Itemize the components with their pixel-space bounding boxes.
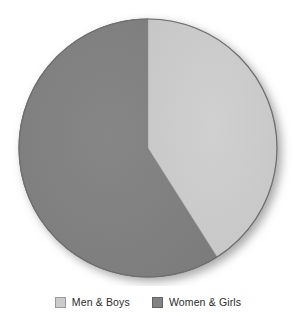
chart-legend: Men & Boys Women & Girls bbox=[0, 291, 296, 313]
legend-label-men-and-boys: Men & Boys bbox=[72, 297, 130, 308]
pie-slices-group bbox=[19, 19, 277, 277]
legend-swatch-men-and-boys-icon bbox=[55, 297, 66, 308]
legend-item-women-and-girls[interactable]: Women & Girls bbox=[152, 297, 241, 308]
pie-svg bbox=[0, 0, 296, 286]
pie-chart: Men & Boys Women & Girls bbox=[0, 0, 296, 330]
pie-plot-area bbox=[0, 0, 296, 286]
legend-item-men-and-boys[interactable]: Men & Boys bbox=[55, 297, 130, 308]
legend-swatch-women-and-girls-icon bbox=[152, 297, 163, 308]
legend-label-women-and-girls: Women & Girls bbox=[169, 297, 241, 308]
